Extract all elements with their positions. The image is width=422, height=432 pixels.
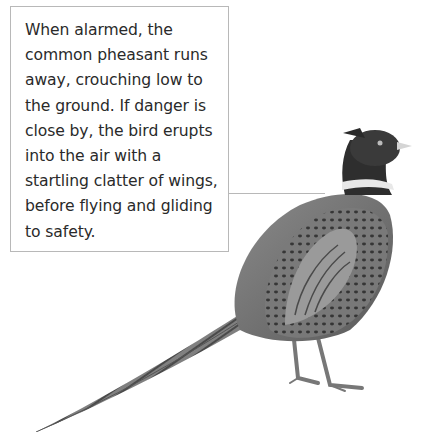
tail: [36, 300, 262, 432]
body: [235, 194, 394, 341]
pheasant-illustration: [0, 0, 422, 432]
